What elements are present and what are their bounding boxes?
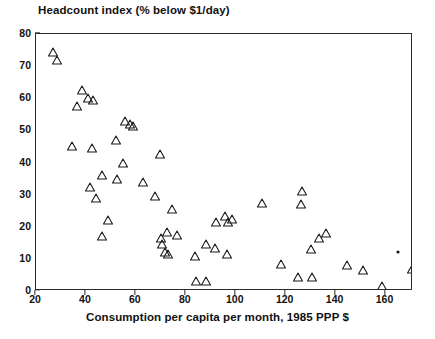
y-tick-label: 40 bbox=[19, 156, 31, 168]
data-point-triangle bbox=[256, 198, 267, 208]
plot-area bbox=[35, 33, 412, 290]
data-point-triangle bbox=[305, 244, 316, 254]
data-point-triangle bbox=[154, 149, 165, 159]
data-point-triangle bbox=[226, 214, 237, 224]
y-tick-label: 10 bbox=[19, 252, 31, 264]
x-tick-mark bbox=[334, 290, 335, 295]
data-point-triangle bbox=[358, 265, 369, 275]
data-point-triangle bbox=[293, 272, 304, 282]
y-tick-label: 80 bbox=[19, 27, 31, 39]
data-point-triangle bbox=[320, 228, 331, 238]
data-point-triangle bbox=[77, 85, 88, 95]
x-tick-mark bbox=[284, 290, 285, 295]
data-point-triangle bbox=[155, 233, 166, 243]
data-point-triangle bbox=[67, 141, 78, 151]
chart-title: Headcount index (% below $1/day) bbox=[38, 4, 230, 16]
x-tick-mark bbox=[34, 290, 35, 295]
scatter-chart-figure: Headcount index (% below $1/day) 0102030… bbox=[0, 0, 435, 339]
data-point-triangle bbox=[190, 276, 201, 286]
x-tick-mark bbox=[234, 290, 235, 295]
data-point-triangle bbox=[48, 47, 59, 57]
data-point-triangle bbox=[295, 199, 306, 209]
y-tick-label: 60 bbox=[19, 91, 31, 103]
data-point-triangle bbox=[118, 158, 129, 168]
data-point-triangle bbox=[167, 204, 178, 214]
data-point-triangle bbox=[84, 182, 95, 192]
data-point-triangle bbox=[87, 143, 98, 153]
data-point-triangle bbox=[124, 119, 135, 129]
data-point-triangle bbox=[306, 272, 317, 282]
x-tick-mark bbox=[184, 290, 185, 295]
data-point-triangle bbox=[97, 170, 108, 180]
data-point-triangle bbox=[219, 211, 230, 221]
data-point-triangle bbox=[275, 259, 286, 269]
data-point-triangle bbox=[97, 231, 108, 241]
data-point-triangle bbox=[223, 217, 234, 227]
y-tick-label: 70 bbox=[19, 59, 31, 71]
data-point-triangle bbox=[112, 174, 123, 184]
data-point-triangle bbox=[162, 227, 173, 237]
data-point-triangle bbox=[296, 186, 307, 196]
data-point-triangle bbox=[221, 249, 232, 259]
y-tick-label: 20 bbox=[19, 220, 31, 232]
data-point-triangle bbox=[110, 135, 121, 145]
data-point-triangle bbox=[90, 193, 101, 203]
data-point-triangle bbox=[314, 233, 325, 243]
data-point-triangle bbox=[406, 264, 412, 274]
data-point-dot bbox=[396, 250, 401, 255]
data-point-triangle bbox=[149, 191, 160, 201]
data-point-triangle bbox=[128, 121, 139, 131]
data-point-triangle bbox=[52, 55, 63, 65]
data-point-triangle bbox=[159, 247, 170, 257]
data-point-triangle bbox=[172, 230, 183, 240]
data-point-triangle bbox=[157, 239, 168, 249]
data-point-triangle bbox=[119, 116, 130, 126]
data-point-triangle bbox=[163, 249, 174, 259]
x-tick-mark bbox=[134, 290, 135, 295]
data-point-triangle bbox=[189, 251, 200, 261]
data-point-triangle bbox=[103, 215, 114, 225]
data-point-triangle bbox=[138, 177, 149, 187]
data-point-triangle bbox=[341, 260, 352, 270]
data-point-triangle bbox=[200, 239, 211, 249]
x-axis-label: Consumption per capita per month, 1985 P… bbox=[0, 311, 435, 323]
data-point-triangle bbox=[376, 281, 387, 290]
data-point-triangle bbox=[210, 217, 221, 227]
y-tick-label: 50 bbox=[19, 123, 31, 135]
data-point-triangle bbox=[200, 276, 211, 286]
x-tick-mark bbox=[384, 290, 385, 295]
data-point-triangle bbox=[88, 95, 99, 105]
y-tick-label: 30 bbox=[19, 188, 31, 200]
data-point-triangle bbox=[72, 101, 83, 111]
data-point-triangle bbox=[83, 93, 94, 103]
y-axis-tick-labels: 01020304050607080 bbox=[0, 0, 31, 339]
data-point-triangle bbox=[209, 243, 220, 253]
x-tick-mark bbox=[84, 290, 85, 295]
